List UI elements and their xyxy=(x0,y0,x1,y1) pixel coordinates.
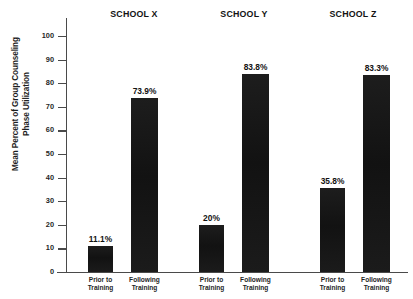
y-axis-title: Mean Percent of Group Counseling Phase U… xyxy=(10,4,38,204)
y-tick-label-50: 50 xyxy=(36,150,54,158)
y-tick-mark-70 xyxy=(58,107,66,108)
bar-value-school-z-following: 83.3% xyxy=(347,64,407,73)
y-tick-mark-80 xyxy=(58,83,66,84)
group-heading-school-z: SCHOOL Z xyxy=(309,8,397,19)
group-heading-school-y: SCHOOL Y xyxy=(200,8,288,19)
y-tick-mark-90 xyxy=(58,60,66,61)
bar-caption-school-x-following: Following Training xyxy=(115,276,175,292)
bar-caption-school-z-following: Following Training xyxy=(347,276,407,292)
y-tick-label-100: 100 xyxy=(36,32,54,40)
y-tick-label-80: 80 xyxy=(36,79,54,87)
y-tick-mark-40 xyxy=(58,178,66,179)
bar-value-school-x-prior: 11.1% xyxy=(71,235,131,244)
y-tick-label-30: 30 xyxy=(36,197,54,205)
group-heading-school-x: SCHOOL X xyxy=(90,8,178,19)
y-axis-line xyxy=(66,18,67,273)
y-tick-label-90: 90 xyxy=(36,56,54,64)
bar-school-y-prior[interactable] xyxy=(199,225,224,272)
bar-caption-school-y-following: Following Training xyxy=(226,276,286,292)
y-tick-mark-20 xyxy=(58,225,66,226)
bar-school-y-following[interactable] xyxy=(242,74,269,272)
bar-school-x-following[interactable] xyxy=(131,98,158,272)
bar-chart: Mean Percent of Group Counseling Phase U… xyxy=(0,0,413,299)
bar-value-school-y-following: 83.8% xyxy=(226,63,286,72)
bar-value-school-x-following: 73.9% xyxy=(115,87,175,96)
y-tick-mark-30 xyxy=(58,201,66,202)
y-tick-label-20: 20 xyxy=(36,221,54,229)
y-tick-label-0: 0 xyxy=(36,268,54,276)
bar-value-school-z-prior: 35.8% xyxy=(303,177,363,186)
y-tick-label-10: 10 xyxy=(36,244,54,252)
y-tick-mark-50 xyxy=(58,154,66,155)
y-tick-mark-60 xyxy=(58,130,66,131)
bar-school-x-prior[interactable] xyxy=(88,246,113,272)
y-tick-label-40: 40 xyxy=(36,174,54,182)
x-axis-line xyxy=(57,272,408,273)
bar-school-z-following[interactable] xyxy=(363,75,390,272)
y-tick-mark-0 xyxy=(58,272,66,273)
bar-value-school-y-prior: 20% xyxy=(182,214,242,223)
y-tick-label-60: 60 xyxy=(36,126,54,134)
y-tick-label-70: 70 xyxy=(36,103,54,111)
y-tick-mark-100 xyxy=(58,36,66,37)
bar-school-z-prior[interactable] xyxy=(320,188,345,272)
y-tick-mark-10 xyxy=(58,248,66,249)
